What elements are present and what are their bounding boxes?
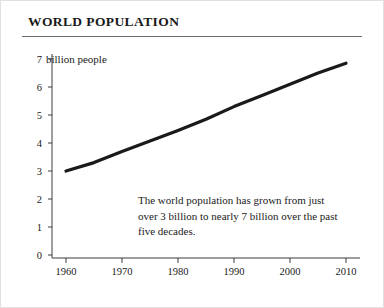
x-tick-label: 1980: [168, 266, 189, 277]
x-tick-label: 2010: [336, 266, 357, 277]
x-tick-label: 1960: [56, 266, 77, 277]
y-tick-label: 3: [37, 166, 42, 177]
y-tick-label: 4: [37, 138, 43, 149]
y-tick-label: 2: [37, 194, 42, 205]
x-tick-label: 1970: [112, 266, 133, 277]
y-tick-label: 1: [37, 222, 42, 233]
y-axis-ticks: [48, 59, 52, 255]
line-chart-plot: 7 6 5 4 3 2 1 0 1960 1970 1980 1990 2000: [22, 46, 366, 286]
x-tick-label: 2000: [280, 266, 301, 277]
x-axis-ticks: [66, 258, 346, 263]
y-tick-label: 5: [37, 110, 42, 121]
page-title: WORLD POPULATION: [28, 14, 179, 30]
population-line-series: [66, 63, 346, 171]
y-tick-label: 6: [37, 82, 42, 93]
y-tick-label: 0: [37, 250, 42, 261]
chart-card: WORLD POPULATION billion people 7 6 5: [0, 0, 384, 308]
title-divider: [22, 36, 362, 37]
chart-annotation-text: The world population has grown from just…: [138, 193, 338, 240]
y-tick-label: 7: [37, 54, 42, 65]
x-tick-label: 1990: [224, 266, 245, 277]
